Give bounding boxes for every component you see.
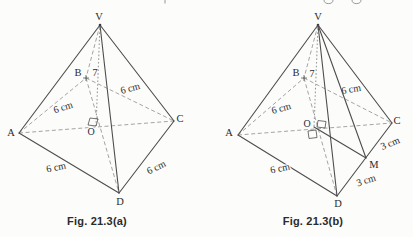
vertex-label-v: V [314,11,322,22]
vertex-label-c: C [176,113,183,124]
vertex-label-a: A [7,127,15,138]
apex-dot [99,24,102,27]
vertex-label-c: C [393,115,400,126]
vertex-label-b: B [292,67,299,78]
figure-b-caption: Fig. 21.3(b) [283,215,344,227]
textbook-figure-panel: V A B C D O 7 6 cm 6 cm 6 cm 6 cm Fig. 2… [0,0,413,237]
vertex-label-o: O [303,118,310,129]
pyramid-diagrams-svg: V A B C D O 7 6 cm 6 cm 6 cm 6 cm Fig. 2… [0,0,413,237]
vertex-label-d: D [334,198,342,209]
figure-a-caption: Fig. 21.3(a) [67,215,127,227]
vertex-label-d: D [116,196,124,207]
vertex-label-v: V [95,11,103,22]
vertex-label-a: A [225,127,233,138]
vertex-label-m: M [369,159,379,170]
vertex-label-b: B [74,67,81,78]
measurement-vo: 7 [93,67,98,78]
vertex-label-o: O [87,126,94,137]
measurement-vo: 7 [310,68,315,79]
page-background [0,0,413,237]
